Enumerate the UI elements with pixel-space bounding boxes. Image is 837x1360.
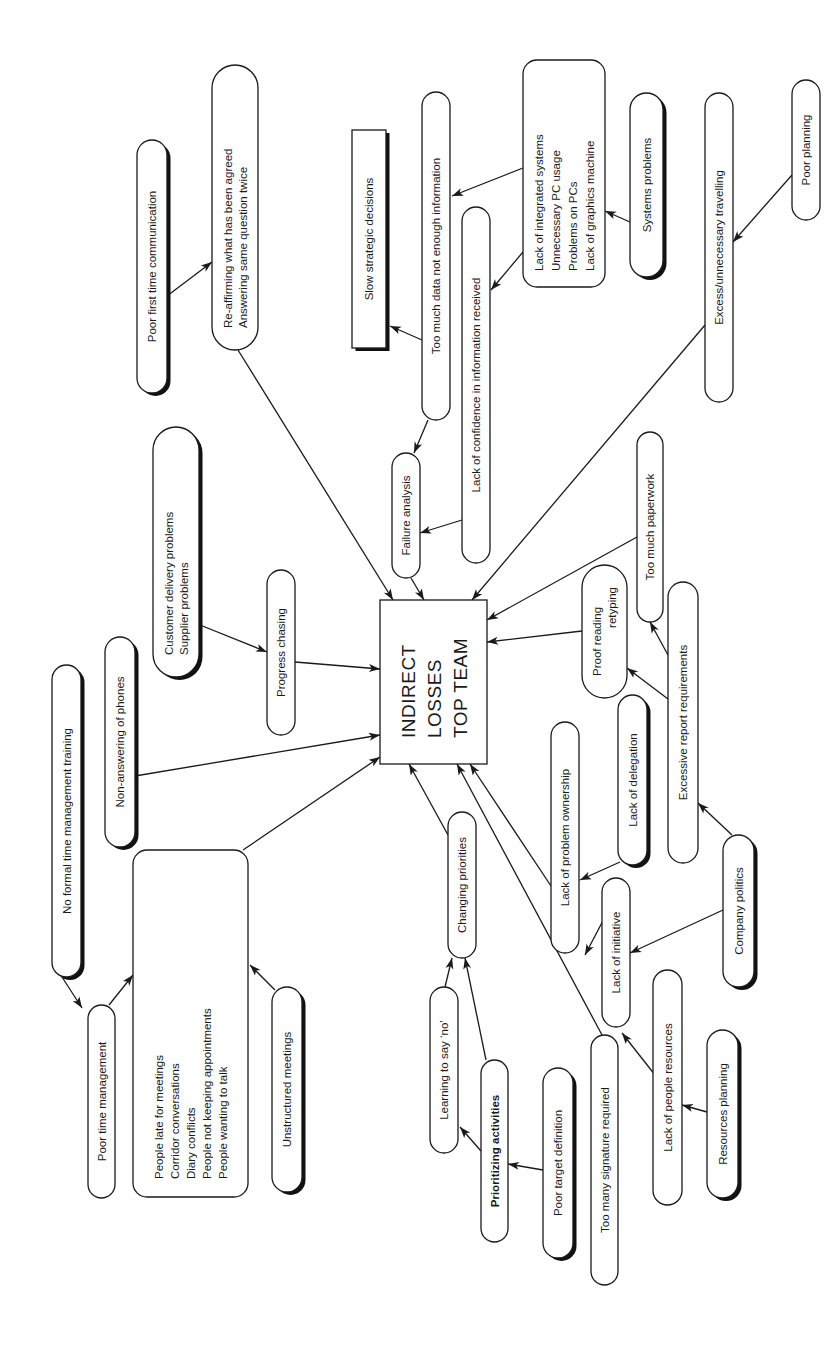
node-label-line: Learning to say ‘no’ bbox=[438, 1020, 450, 1120]
edge-poor-target-definition-to-prioritizing-activities bbox=[508, 1162, 543, 1170]
node-proof-reading: Proof readingretyping bbox=[582, 565, 627, 698]
node-label-line: People not keeping appointments bbox=[201, 1008, 213, 1179]
diagram-canvas: Poor first time communicationRe-affirmin… bbox=[0, 0, 837, 1360]
node-label-line: Excess/unnecessary travelling bbox=[713, 170, 725, 325]
edge-excessive-report-to-too-much-paperwork bbox=[650, 622, 668, 655]
node-label-line: Lack of initiative bbox=[610, 912, 622, 994]
edge-customer-delivery-to-progress-chasing bbox=[200, 625, 267, 652]
edge-no-formal-training-to-poor-time-management bbox=[62, 977, 82, 1008]
node-unstructured-meetings: Unstructured meetings bbox=[272, 987, 306, 1195]
node-label-line: Too many signature required bbox=[599, 1087, 611, 1233]
arrowhead-icon bbox=[409, 764, 418, 776]
node-non-answering-phones: Non-answering of phones bbox=[105, 637, 139, 850]
node-excessive-report: Excessive report requirements bbox=[668, 582, 698, 863]
edge-unstructured-meetings-to-meetings-list bbox=[250, 965, 275, 990]
node-label-line: Poor first time communication bbox=[146, 191, 158, 342]
node-label-line: People late for meetings bbox=[153, 1055, 165, 1179]
node-prioritizing-activities: Prioritizing activities bbox=[481, 1060, 508, 1242]
node-label-line: Poor time management bbox=[96, 1041, 108, 1161]
arrowhead-icon bbox=[487, 611, 499, 620]
node-systems-problems: Systems problems bbox=[630, 93, 667, 280]
nodes-layer: Poor first time communicationRe-affirmin… bbox=[52, 60, 820, 1285]
node-label-line: Changing priorities bbox=[456, 837, 468, 933]
edge-too-much-data-to-slow-strategic-decisions bbox=[390, 326, 422, 340]
center-label-line: TOP TEAM bbox=[450, 638, 471, 738]
node-label-line: Lack of integrated systems bbox=[533, 134, 545, 271]
node-poor-planning: Poor planning bbox=[792, 80, 820, 220]
node-resources-planning: Resources planning bbox=[707, 1030, 742, 1201]
node-label-line: Company politics bbox=[733, 867, 745, 955]
node-label-line: Lack of problem ownership bbox=[559, 769, 571, 906]
edge-excessive-report-to-proof-reading bbox=[627, 668, 668, 699]
edge-lack-of-delegation-to-lack-of-problem-ownership bbox=[580, 862, 620, 880]
node-label-line: Corridor conversations bbox=[169, 1063, 181, 1179]
node-company-politics: Company politics bbox=[723, 835, 758, 990]
node-no-formal-training: No formal time management training bbox=[52, 665, 85, 980]
arrowhead-icon bbox=[457, 764, 466, 776]
node-label-line: Excessive report requirements bbox=[677, 645, 689, 801]
arrowhead-icon bbox=[369, 757, 380, 766]
edge-progress-chasing-to-center bbox=[295, 662, 380, 672]
node-poor-target-definition: Poor target definition bbox=[543, 1068, 577, 1261]
node-label-line: Lack of confidence in information receiv… bbox=[470, 278, 482, 493]
edge-poor-time-management-to-meetings-list bbox=[109, 975, 133, 1005]
edge-lack-of-problem-ownership-to-center bbox=[470, 764, 551, 886]
node-label-line: Supplier problems bbox=[178, 562, 190, 655]
node-label-line: Lack of graphics machine bbox=[584, 141, 596, 271]
cause-effect-diagram: Poor first time communicationRe-affirmin… bbox=[0, 0, 837, 1360]
edge-meetings-list-to-center bbox=[243, 757, 380, 850]
node-label-line: Prioritizing activities bbox=[489, 1095, 501, 1207]
node-label-line: Unnecessary PC usage bbox=[550, 150, 562, 271]
node-re-affirming: Re-affirming what has been agreedAnsweri… bbox=[212, 65, 258, 350]
edge-learning-to-say-no-to-changing-priorities bbox=[445, 958, 453, 987]
node-progress-chasing: Progress chasing bbox=[267, 570, 295, 735]
node-label-line: Slow strategic decisions bbox=[363, 177, 375, 300]
node-slow-strategic-decisions: Slow strategic decisions bbox=[352, 130, 390, 351]
node-label-line: Lack of people resources bbox=[662, 1023, 674, 1152]
arrowhead-icon bbox=[123, 975, 133, 986]
node-failure-analysis: Failure analysis bbox=[392, 453, 420, 578]
node-label-line: Too much data not enough information bbox=[430, 158, 442, 354]
node-lack-of-initiative: Lack of initiative bbox=[602, 878, 630, 1027]
edge-changing-priorities-to-center bbox=[409, 764, 448, 835]
edge-lack-of-confidence-to-failure-analysis bbox=[420, 520, 462, 534]
node-lack-of-people-resources: Lack of people resources bbox=[653, 970, 682, 1205]
edge-prioritizing-activities-to-learning-to-say-no bbox=[460, 1127, 481, 1151]
node-lack-of-problem-ownership: Lack of problem ownership bbox=[551, 722, 579, 953]
node-systems-list: Lack of integrated systemsUnnecessary PC… bbox=[523, 60, 605, 287]
node-excess-travelling: Excess/unnecessary travelling bbox=[705, 93, 733, 402]
center-label-line: LOSSES bbox=[424, 659, 445, 738]
node-label-line: Poor planning bbox=[800, 115, 812, 186]
node-label-line: Poor target definition bbox=[552, 1110, 564, 1216]
node-label-line: Unstructured meetings bbox=[281, 1031, 293, 1147]
edge-systems-list-to-lack-of-confidence bbox=[491, 252, 523, 290]
edge-company-politics-to-lack-of-initiative bbox=[630, 910, 723, 953]
arrowhead-icon bbox=[585, 943, 594, 955]
node-label-line: No formal time management training bbox=[61, 728, 73, 914]
center-label-line: INDIRECT bbox=[398, 644, 419, 738]
node-label-line: Resources planning bbox=[717, 1063, 729, 1165]
edge-too-many-signature-to-center bbox=[457, 764, 602, 1035]
node-label-line: Failure analysis bbox=[400, 475, 412, 555]
arrowhead-icon bbox=[650, 622, 659, 634]
node-label-line: Progress chasing bbox=[275, 608, 287, 697]
arrowhead-icon bbox=[384, 589, 393, 600]
edge-proof-reading-to-center bbox=[487, 631, 582, 645]
edge-too-much-data-to-failure-analysis bbox=[414, 420, 428, 453]
arrowhead-icon bbox=[201, 262, 212, 272]
node-label-line: Non-answering of phones bbox=[114, 676, 126, 807]
node-lack-of-confidence: Lack of confidence in information receiv… bbox=[462, 207, 490, 563]
node-lack-of-delegation: Lack of delegation bbox=[618, 695, 651, 868]
node-label-line: People wanting to talk bbox=[217, 1066, 229, 1179]
edge-re-affirming-to-center bbox=[238, 350, 393, 600]
node-label-line: Customer delivery problems bbox=[163, 512, 175, 655]
arrowhead-icon bbox=[627, 668, 638, 678]
node-customer-delivery: Customer delivery problemsSupplier probl… bbox=[153, 427, 203, 680]
node-meetings-list: People late for meetingsCorridor convers… bbox=[133, 850, 248, 1197]
edge-non-answering-phones-to-center bbox=[135, 733, 380, 776]
edge-poor-planning-to-excess-travelling bbox=[733, 175, 792, 242]
edge-company-politics-to-excessive-report bbox=[698, 803, 732, 835]
arrowhead-icon bbox=[73, 997, 82, 1008]
node-poor-time-management: Poor time management bbox=[88, 1005, 115, 1198]
node-label-line: Answering same question twice bbox=[237, 167, 249, 328]
